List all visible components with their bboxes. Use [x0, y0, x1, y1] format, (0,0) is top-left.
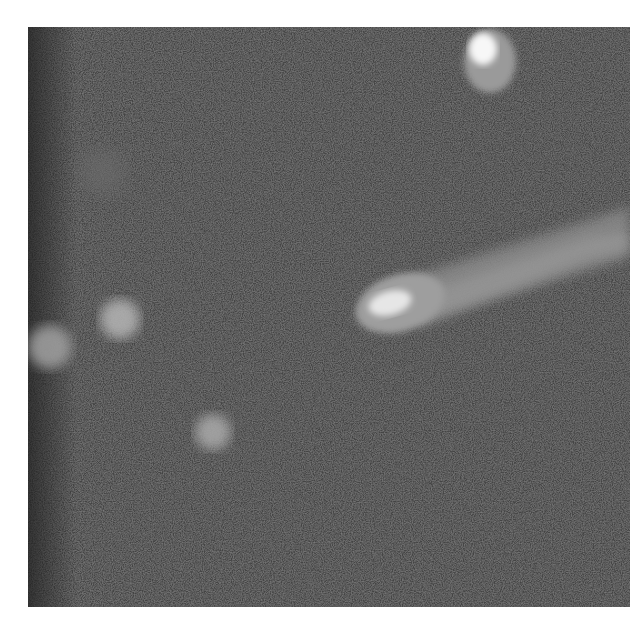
comet-photograph — [28, 27, 630, 607]
photo-canvas — [28, 27, 630, 607]
speckle-noise — [28, 27, 630, 607]
